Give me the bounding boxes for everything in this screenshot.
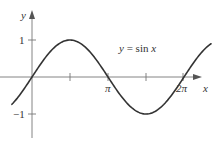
sine-graph: y x 1 −1 π 2π y = sin x xyxy=(0,0,222,144)
x-tick-label-pi: π xyxy=(105,82,111,94)
axes xyxy=(0,14,199,138)
annotation-eq: = sin xyxy=(124,42,151,54)
y-axis-arrow-icon xyxy=(29,10,35,19)
y-axis-label: y xyxy=(20,9,26,21)
annotation-x: x xyxy=(150,42,156,54)
x-tick-label-two-pi: 2π xyxy=(176,82,188,94)
x-axis-arrow-icon xyxy=(193,74,202,80)
y-tick-label-one: 1 xyxy=(19,34,25,46)
x-axis-label: x xyxy=(202,82,208,94)
function-annotation: y = sin x xyxy=(118,42,156,54)
y-tick-label-neg-one: −1 xyxy=(13,108,25,120)
